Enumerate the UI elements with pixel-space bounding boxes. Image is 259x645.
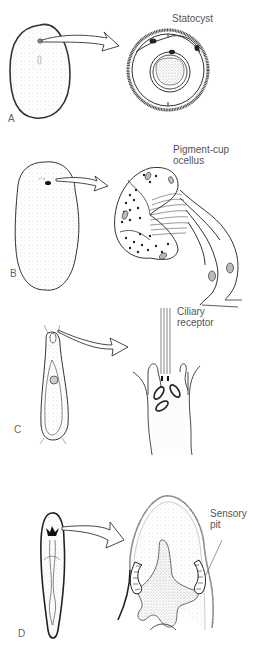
figure-canvas: r° v	[0, 0, 259, 645]
label-pigment-cup-line1: Pigment-cup	[173, 144, 229, 155]
panel-letter-c: C	[14, 424, 21, 435]
sensory-pit-left-icon	[130, 562, 142, 594]
label-sensory-line2: pit	[210, 519, 221, 530]
panel-b-ocellus-detail	[115, 167, 242, 307]
panel-letter-b: B	[10, 268, 17, 279]
panel-c-arrow-icon	[58, 330, 128, 356]
label-statocyst: Statocyst	[172, 13, 213, 24]
svg-text:r° v: r° v	[39, 176, 45, 181]
svg-text:..: ..	[49, 342, 51, 347]
panel-d-arrow-icon	[62, 522, 124, 548]
panel-letter-a: A	[8, 113, 15, 124]
label-ciliary-line2: receptor	[177, 317, 214, 328]
label-sensory-line1: Sensory	[210, 508, 247, 519]
panel-d-sensory-pit-detail	[118, 496, 222, 630]
panel-d-organism	[41, 513, 65, 638]
label-pigment-cup-ocellus: Pigment-cup ocellus	[173, 144, 229, 166]
label-ciliary-line1: Ciliary	[177, 306, 205, 317]
cilia-icon	[161, 308, 170, 374]
panel-a-statocyst-detail	[128, 30, 208, 110]
label-pigment-cup-line2: ocellus	[173, 155, 204, 166]
panel-letter-d: D	[18, 628, 25, 639]
panel-c-organism: ..	[40, 325, 68, 444]
label-sensory-pit: Sensory pit	[210, 508, 247, 530]
panel-c-ciliary-receptor-detail	[133, 308, 200, 455]
label-ciliary-receptor: Ciliary receptor	[177, 306, 214, 328]
